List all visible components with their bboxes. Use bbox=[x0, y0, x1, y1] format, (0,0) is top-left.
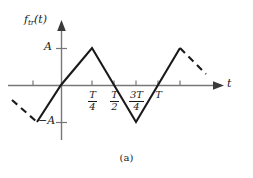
y-axis-arrowhead bbox=[57, 20, 66, 31]
figure-caption: (a) bbox=[0, 152, 253, 163]
fraction-3t-over-4: 3T 4 bbox=[129, 90, 144, 112]
fraction-numerator: T bbox=[110, 90, 119, 100]
fraction-denominator: 4 bbox=[88, 102, 97, 112]
waveform-dashed-right bbox=[180, 48, 206, 74]
waveform-dashed-left bbox=[12, 100, 37, 122]
tick-label-half-period: T 2 bbox=[106, 90, 123, 112]
x-axis-label: t bbox=[227, 78, 231, 89]
x-axis-arrowhead bbox=[213, 81, 224, 90]
y-axis-label: ftr(t) bbox=[24, 14, 47, 26]
amplitude-positive-label: A bbox=[44, 41, 52, 52]
triangular-wave-figure: ftr(t) t A −A T 4 T 2 3T 4 T (a) bbox=[0, 0, 253, 178]
fraction-t-over-2: T 2 bbox=[110, 90, 119, 112]
y-axis-label-argument: (t) bbox=[34, 13, 47, 26]
fraction-numerator: 3T bbox=[129, 90, 144, 100]
amplitude-negative-label: −A bbox=[38, 115, 55, 126]
fraction-numerator: T bbox=[88, 90, 97, 100]
fraction-t-over-4: T 4 bbox=[88, 90, 97, 112]
tick-label-quarter-period: T 4 bbox=[84, 90, 101, 112]
tick-label-three-quarter-period: 3T 4 bbox=[125, 90, 148, 112]
fraction-denominator: 4 bbox=[129, 102, 144, 112]
fraction-denominator: 2 bbox=[110, 102, 119, 112]
tick-label-full-period: T bbox=[152, 90, 165, 100]
